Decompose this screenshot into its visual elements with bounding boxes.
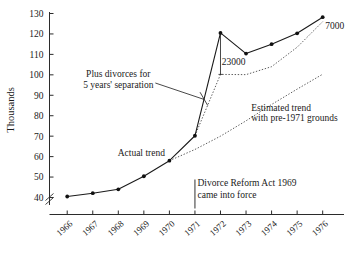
x-tick-label: 1968 — [106, 218, 126, 238]
data-point-marker — [321, 15, 325, 19]
annotation-group: Actual trend Plus divorces for 5 years' … — [83, 21, 344, 200]
y-axis-title-group: Thousands — [5, 87, 16, 133]
annotation-estimated-trend-line2: with pre-1971 grounds — [251, 113, 338, 123]
annotation-event-line1: Divorce Reform Act 1969 — [198, 178, 297, 188]
y-tick-label: 120 — [29, 29, 44, 39]
x-tick-label: 1973 — [233, 218, 253, 238]
annotation-estimated-trend-line1: Estimated trend — [251, 103, 311, 113]
annotation-actual-trend: Actual trend — [118, 148, 165, 158]
x-tick-label: 1975 — [284, 218, 304, 238]
x-tick-label: 1967 — [80, 218, 100, 238]
data-point-marker — [270, 42, 274, 46]
x-tick-label: 1970 — [157, 218, 177, 238]
x-tick-label: 1971 — [182, 219, 202, 238]
x-tick-label: 1974 — [259, 218, 279, 238]
data-point-marker — [244, 52, 248, 56]
data-point-marker — [65, 195, 69, 199]
y-tick-label: 100 — [29, 70, 44, 80]
y-tick-label: 90 — [34, 91, 44, 101]
y-tick-label: 80 — [34, 111, 44, 121]
annotation-event-line2: came into force — [198, 190, 257, 200]
y-axis-title: Thousands — [5, 87, 16, 133]
data-point-marker — [116, 187, 120, 191]
value-label-7000: 7000 — [325, 21, 344, 31]
x-tick-label: 1976 — [310, 218, 330, 238]
y-tick-label: 130 — [29, 9, 44, 19]
data-point-marker — [91, 191, 95, 195]
line-chart-figure: 405060708090100110120130 196619671968196… — [0, 0, 358, 256]
data-point-marker — [193, 134, 197, 138]
leader-plus-divorces — [155, 83, 207, 105]
data-point-marker — [168, 159, 172, 163]
x-tick-label: 1969 — [131, 218, 151, 238]
data-point-marker — [295, 31, 299, 35]
y-tick-label: 60 — [34, 152, 44, 162]
annotation-plus-divorces-line2: 5 years' separation — [83, 80, 154, 90]
annotation-plus-divorces-line1: Plus divorces for — [86, 69, 151, 79]
x-tick-label: 1966 — [54, 218, 74, 238]
y-tick-label: 110 — [30, 50, 44, 60]
y-tick-label: 50 — [34, 172, 44, 182]
data-point-marker — [142, 174, 146, 178]
x-tick-label: 1972 — [208, 219, 228, 238]
y-tick-label: 70 — [34, 132, 44, 142]
chart-container: 405060708090100110120130 196619671968196… — [0, 0, 358, 256]
value-label-23000: 23000 — [222, 57, 246, 67]
y-tick-label: 40 — [34, 193, 44, 203]
